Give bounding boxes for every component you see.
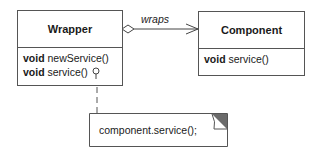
note[interactable]: component.service(); <box>89 113 228 147</box>
aggregation-diamond-icon <box>122 25 134 33</box>
operation: void newService() <box>23 51 117 65</box>
class-wrapper[interactable]: Wrapper void newService() void service() <box>17 10 123 86</box>
operation: void service() <box>23 65 117 79</box>
operation: void service() <box>204 52 299 66</box>
note-anchor-icon <box>91 67 101 79</box>
association-label: wraps <box>141 13 169 25</box>
note-text: component.service(); <box>99 124 197 136</box>
class-name: Wrapper <box>18 11 122 48</box>
operations-compartment: void newService() void service() <box>18 48 122 82</box>
operations-compartment: void service() <box>199 49 304 69</box>
class-name: Component <box>199 12 304 49</box>
class-component[interactable]: Component void service() <box>198 11 305 76</box>
